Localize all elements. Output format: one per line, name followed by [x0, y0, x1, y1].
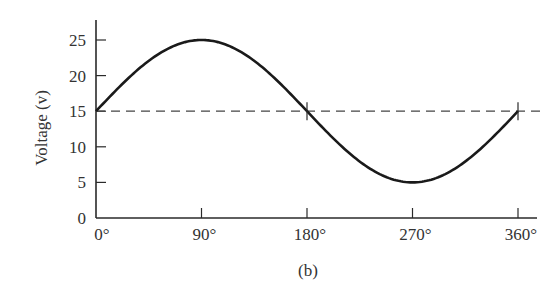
- y-tick-label: 10: [69, 138, 86, 157]
- figure-caption: (b): [298, 261, 318, 280]
- voltage-chart: 0510152025 0°90°180°270°360° Voltage (v)…: [0, 0, 558, 300]
- y-tick-label: 25: [69, 31, 86, 50]
- x-tick-label: 0°: [94, 225, 109, 244]
- y-tick-label: 5: [78, 173, 87, 192]
- y-axis: 0510152025: [69, 20, 106, 228]
- x-tick-label: 270°: [399, 225, 431, 244]
- y-axis-label: Voltage (v): [32, 90, 51, 166]
- y-tick-label: 15: [69, 102, 86, 121]
- x-tick-label: 180°: [294, 225, 326, 244]
- y-tick-label: 0: [78, 209, 87, 228]
- x-axis: 0°90°180°270°360°: [94, 208, 537, 244]
- y-tick-label: 20: [69, 67, 86, 86]
- x-tick-label: 360°: [505, 225, 537, 244]
- x-tick-label: 90°: [193, 225, 217, 244]
